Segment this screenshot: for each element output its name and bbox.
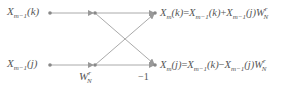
output-equation-top: Xm(k)=Xm−1(k)+Xm−1(j)WrN: [160, 5, 268, 21]
input-label-bottom: Xm−1(j): [7, 57, 37, 72]
twiddle-factor-label: WrN: [79, 69, 92, 85]
node-input-top: [48, 11, 52, 15]
node-mid-bottom: [93, 63, 97, 67]
edge-cross-down: [95, 13, 154, 64]
node-output-top: [153, 11, 157, 15]
edge-cross-up: [95, 14, 154, 65]
node-output-bottom: [153, 63, 157, 67]
output-equation-bottom: Xm(j)=Xm−1(k)−Xm−1(j)WrN: [160, 57, 266, 73]
input-label-top: Xm−1(k): [7, 5, 39, 20]
minus-one-label: −1: [138, 71, 149, 82]
node-input-bottom: [48, 63, 52, 67]
node-mid-top: [93, 11, 97, 15]
